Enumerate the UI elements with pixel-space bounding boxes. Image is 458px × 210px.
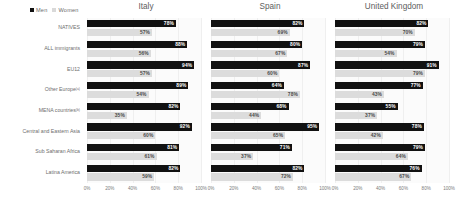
bar-value-label: 79%	[413, 71, 423, 76]
bar-women: 54%	[335, 50, 397, 57]
bar-value-label: 79%	[413, 42, 423, 47]
bar-value-label: 78%	[164, 21, 174, 26]
bar-value-label: 80%	[290, 42, 300, 47]
bar-women: 37%	[211, 153, 253, 160]
bar-men: 64%	[211, 82, 284, 89]
bar-value-label: 87%	[298, 63, 308, 68]
bar-men: 92%	[87, 123, 192, 130]
bar-value-label: 94%	[182, 63, 192, 68]
bar-value-label: 82%	[416, 21, 426, 26]
bar-group: 82%69%	[211, 18, 325, 39]
bar-women: 54%	[87, 91, 149, 98]
bar-value-label: 57%	[140, 30, 150, 35]
bar-women: 67%	[211, 50, 287, 57]
bar-men: 79%	[335, 144, 425, 151]
bar-value-label: 70%	[403, 30, 413, 35]
bar-group: 81%61%	[87, 142, 201, 163]
bar-women: 78%	[211, 91, 300, 98]
bar-women: 35%	[87, 112, 127, 119]
x-axis-tick-label: 80%	[174, 186, 183, 191]
panel-container: Italy78%57%88%56%94%57%89%54%82%35%92%60…	[0, 0, 458, 210]
bar-value-label: 61%	[144, 154, 154, 159]
bar-value-label: 69%	[278, 30, 288, 35]
x-axis-tick-label: 80%	[422, 186, 431, 191]
bar-group: 92%60%	[87, 121, 201, 142]
bar-group: 55%37%	[335, 101, 449, 122]
bar-men: 82%	[87, 165, 180, 172]
x-axis-tick-label: 40%	[376, 186, 385, 191]
bar-men: 79%	[335, 41, 425, 48]
bar-value-label: 37%	[241, 154, 251, 159]
x-axis-tick-label: 0%	[84, 186, 91, 191]
bar-value-label: 59%	[142, 174, 152, 179]
bar-women: 42%	[335, 132, 383, 139]
bar-value-label: 78%	[288, 92, 298, 97]
bar-men: 82%	[211, 165, 304, 172]
bar-value-label: 82%	[292, 21, 302, 26]
bar-men: 71%	[211, 144, 292, 151]
bar-value-label: 71%	[280, 145, 290, 150]
bar-value-label: 54%	[136, 92, 146, 97]
bar-value-label: 60%	[267, 71, 277, 76]
bar-group: 78%42%	[335, 121, 449, 142]
bar-men: 68%	[211, 103, 289, 110]
bar-value-label: 54%	[384, 51, 394, 56]
bar-group: 82%59%	[87, 162, 201, 183]
chart-panel: Italy78%57%88%56%94%57%89%54%82%35%92%60…	[84, 0, 208, 210]
bar-value-label: 95%	[307, 124, 317, 129]
bar-value-label: 82%	[292, 166, 302, 171]
bar-value-label: 81%	[167, 145, 177, 150]
x-axis-tick-label: 80%	[298, 186, 307, 191]
x-axis-tick-label: 60%	[399, 186, 408, 191]
bar-women: 56%	[87, 50, 151, 57]
x-axis-tick-label: 40%	[128, 186, 137, 191]
chart-panel: Spain82%69%80%67%87%60%64%78%68%44%95%65…	[208, 0, 332, 210]
x-axis-tick-label: 0%	[332, 186, 339, 191]
x-axis-tick-label: 100%	[319, 186, 331, 191]
bar-men: 94%	[87, 61, 194, 68]
bar-group: 88%56%	[87, 39, 201, 60]
bar-women: 79%	[335, 70, 425, 77]
bar-women: 61%	[87, 153, 157, 160]
chart-panel: United Kingdom82%70%79%54%91%79%77%43%55…	[332, 0, 456, 210]
plot-area: 78%57%88%56%94%57%89%54%82%35%92%60%81%6…	[87, 18, 201, 183]
bar-women: 65%	[211, 132, 285, 139]
bar-group: 82%70%	[335, 18, 449, 39]
bar-men: 55%	[335, 103, 398, 110]
x-axis-tick-label: 20%	[353, 186, 362, 191]
bar-value-label: 67%	[275, 51, 285, 56]
bar-group: 94%57%	[87, 59, 201, 80]
bar-men: 81%	[87, 144, 179, 151]
bar-women: 70%	[335, 29, 415, 36]
bar-women: 43%	[335, 91, 384, 98]
bar-value-label: 57%	[140, 71, 150, 76]
bar-value-label: 68%	[276, 104, 286, 109]
bar-men: 89%	[87, 82, 188, 89]
bar-group: 79%54%	[335, 39, 449, 60]
bar-group: 79%64%	[335, 142, 449, 163]
x-axis-tick-label: 20%	[105, 186, 114, 191]
panel-title: Spain	[208, 2, 332, 11]
bar-women: 67%	[335, 173, 411, 180]
bar-men: 88%	[87, 41, 187, 48]
bar-value-label: 60%	[143, 133, 153, 138]
bar-men: 82%	[211, 20, 304, 27]
multi-panel-bar-chart: Men Women NATIVESALL immigrantsEU12Other…	[0, 0, 458, 210]
bar-group: 64%78%	[211, 80, 325, 101]
bar-women: 60%	[87, 132, 155, 139]
x-axis-tick-label: 100%	[195, 186, 207, 191]
bar-value-label: 91%	[427, 63, 437, 68]
x-axis-tick-label: 60%	[151, 186, 160, 191]
bar-value-label: 78%	[412, 124, 422, 129]
plot-area: 82%70%79%54%91%79%77%43%55%37%78%42%79%6…	[335, 18, 449, 183]
bar-women: 57%	[87, 29, 152, 36]
bar-group: 95%65%	[211, 121, 325, 142]
bar-value-label: 64%	[396, 154, 406, 159]
x-axis: 0%20%40%60%80%100%	[87, 186, 201, 196]
bar-value-label: 55%	[386, 104, 396, 109]
bar-men: 78%	[87, 20, 176, 27]
x-axis-tick-label: 60%	[275, 186, 284, 191]
panel-title: Italy	[84, 2, 208, 11]
x-axis-tick-label: 0%	[208, 186, 215, 191]
bar-group: 80%67%	[211, 39, 325, 60]
